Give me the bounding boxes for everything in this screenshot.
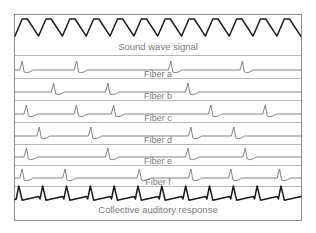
label-fiber-e: Fiber e [144, 156, 172, 166]
label-collective-auditory-response: Collective auditory response [98, 204, 217, 215]
label-fiber-a: Fiber a [144, 69, 172, 79]
figure-root: Sound wave signalFiber aFiber bFiber cFi… [0, 0, 316, 233]
label-fiber-d: Fiber d [144, 135, 172, 145]
label-fiber-c: Fiber c [144, 113, 172, 123]
label-fiber-b: Fiber b [144, 91, 172, 101]
label-sound-wave-signal: Sound wave signal [118, 41, 198, 52]
auditory-response-chart: Sound wave signalFiber aFiber bFiber cFi… [0, 0, 316, 233]
label-fiber-f: Fiber f [145, 177, 171, 187]
